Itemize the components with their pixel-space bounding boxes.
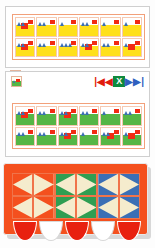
pattern-tile[interactable]	[36, 127, 56, 147]
tile-blue-triangle	[124, 43, 128, 47]
cargo-wedge	[34, 197, 53, 218]
tile-red-block	[128, 133, 135, 139]
tile-base	[59, 25, 77, 35]
cargo-cell[interactable]	[55, 196, 76, 219]
pattern-tile[interactable]	[100, 127, 120, 147]
vehicle-wheel-row	[13, 221, 141, 243]
cargo-wedge	[56, 174, 75, 195]
tile-red-block	[135, 130, 140, 134]
cargo-wedge	[120, 174, 139, 195]
tile-blue-triangle	[102, 111, 106, 115]
tile-blue-triangle	[128, 111, 132, 115]
pattern-tile[interactable]	[15, 127, 35, 147]
cargo-cell[interactable]	[12, 196, 33, 219]
tile-red-block	[92, 41, 97, 45]
cargo-cell[interactable]	[97, 173, 118, 196]
tile-red-block	[71, 20, 76, 24]
tile-red-block	[50, 41, 55, 45]
pattern-tile[interactable]	[79, 127, 99, 147]
pager-prev-button[interactable]: ◀	[105, 76, 113, 87]
tile-red-block	[28, 130, 33, 134]
cargo-wedge	[34, 174, 53, 195]
cargo-cell[interactable]	[12, 173, 33, 196]
pattern-vehicle-canvas[interactable]	[3, 163, 152, 245]
tile-blue-triangle	[64, 132, 68, 136]
tile-blue-triangle	[124, 22, 128, 26]
tile-blue-triangle	[102, 22, 106, 26]
pattern-tile[interactable]	[100, 106, 120, 126]
yellow-tile-frame	[12, 14, 145, 60]
tile-blue-triangle	[81, 132, 85, 136]
pattern-tile[interactable]	[122, 38, 142, 58]
tile-red-block	[135, 20, 140, 24]
cargo-cell[interactable]	[97, 196, 118, 219]
pattern-tile[interactable]	[79, 17, 99, 37]
pager-last-button[interactable]: ▶|	[133, 76, 144, 87]
pager-first-button[interactable]: |◀	[94, 76, 105, 87]
pattern-tile[interactable]	[100, 38, 120, 58]
pattern-tile[interactable]	[36, 106, 56, 126]
tile-blue-triangle	[124, 132, 128, 136]
pattern-tile[interactable]	[15, 106, 35, 126]
pattern-tile[interactable]	[58, 106, 78, 126]
tile-red-block	[50, 130, 55, 134]
pattern-tile[interactable]	[122, 127, 142, 147]
vehicle-wheel	[91, 221, 115, 241]
pattern-tile[interactable]	[58, 127, 78, 147]
tile-base	[80, 25, 98, 35]
tile-red-block	[114, 20, 119, 24]
pattern-tile[interactable]	[122, 17, 142, 37]
cargo-wedge	[13, 174, 32, 195]
vehicle-wheel	[39, 221, 63, 241]
tile-blue-triangle	[42, 111, 46, 115]
vehicle-cargo-grid[interactable]	[12, 173, 140, 219]
pattern-tile[interactable]	[36, 38, 56, 58]
green-tile-frame	[12, 103, 145, 149]
cargo-wedge	[77, 197, 96, 218]
tile-red-block	[71, 109, 76, 113]
tile-base	[101, 46, 119, 56]
pager-page-indicator: X	[113, 76, 125, 87]
cargo-cell[interactable]	[76, 196, 97, 219]
pattern-tile[interactable]	[122, 106, 142, 126]
pattern-tile[interactable]	[58, 38, 78, 58]
cargo-cell[interactable]	[33, 173, 54, 196]
tile-blue-triangle	[106, 132, 110, 136]
tile-red-block	[114, 41, 119, 45]
tile-blue-triangle	[68, 43, 72, 47]
tile-base	[123, 25, 141, 35]
pattern-tile[interactable]	[79, 38, 99, 58]
tile-red-block	[50, 109, 55, 113]
cargo-wedge	[56, 197, 75, 218]
cargo-cell[interactable]	[119, 173, 140, 196]
tile-red-block	[128, 44, 135, 50]
yellow-tile-grid[interactable]	[15, 17, 142, 57]
pager-next-button[interactable]: ▶	[125, 76, 133, 87]
green-pattern-panel: |◀ ◀ X ▶ ▶|	[5, 71, 150, 157]
cargo-cell[interactable]	[119, 196, 140, 219]
cargo-cell[interactable]	[76, 173, 97, 196]
pattern-tile[interactable]	[79, 106, 99, 126]
pattern-tile[interactable]	[58, 17, 78, 37]
pattern-tile[interactable]	[15, 38, 35, 58]
cargo-cell[interactable]	[55, 173, 76, 196]
tile-red-block	[92, 109, 97, 113]
tile-red-block	[71, 130, 76, 134]
cargo-cell[interactable]	[33, 196, 54, 219]
pattern-tile[interactable]	[36, 17, 56, 37]
tile-blue-triangle	[42, 43, 46, 47]
green-pattern-thumbnail[interactable]	[11, 76, 22, 87]
green-tile-grid[interactable]	[15, 106, 142, 146]
pattern-tile[interactable]	[15, 17, 35, 37]
tile-blue-triangle	[21, 132, 25, 136]
tile-blue-triangle	[85, 22, 89, 26]
tile-base	[123, 114, 141, 124]
pattern-tile[interactable]	[100, 17, 120, 37]
tile-base	[37, 25, 55, 35]
tile-red-block	[114, 109, 119, 113]
tile-blue-triangle	[60, 22, 64, 26]
tile-blue-triangle	[85, 43, 89, 47]
pager-control[interactable]: |◀ ◀ X ▶ ▶|	[94, 76, 144, 87]
tile-red-block	[114, 130, 119, 134]
tile-red-block	[28, 20, 33, 24]
